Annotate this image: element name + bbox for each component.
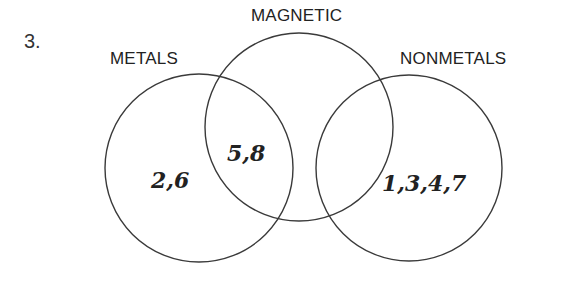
metals-only-region-values: 2,6	[151, 169, 189, 191]
nonmetals-only-region-values: 1,3,4,7	[382, 172, 466, 194]
venn-circles	[0, 0, 569, 281]
question-number: 3.	[24, 31, 41, 51]
magnetic-circle	[205, 33, 393, 221]
nonmetals-set-label: NONMETALS	[400, 50, 506, 67]
metals-set-label: METALS	[110, 50, 178, 67]
nonmetals-circle	[316, 75, 502, 261]
magnetic-set-label: MAGNETIC	[251, 7, 342, 24]
metals-circle	[105, 74, 293, 262]
metals-magnetic-overlap-values: 5,8	[227, 142, 265, 164]
venn-diagram: 3. METALS MAGNETIC NONMETALS 2,6 5,8 1,3…	[0, 0, 569, 281]
